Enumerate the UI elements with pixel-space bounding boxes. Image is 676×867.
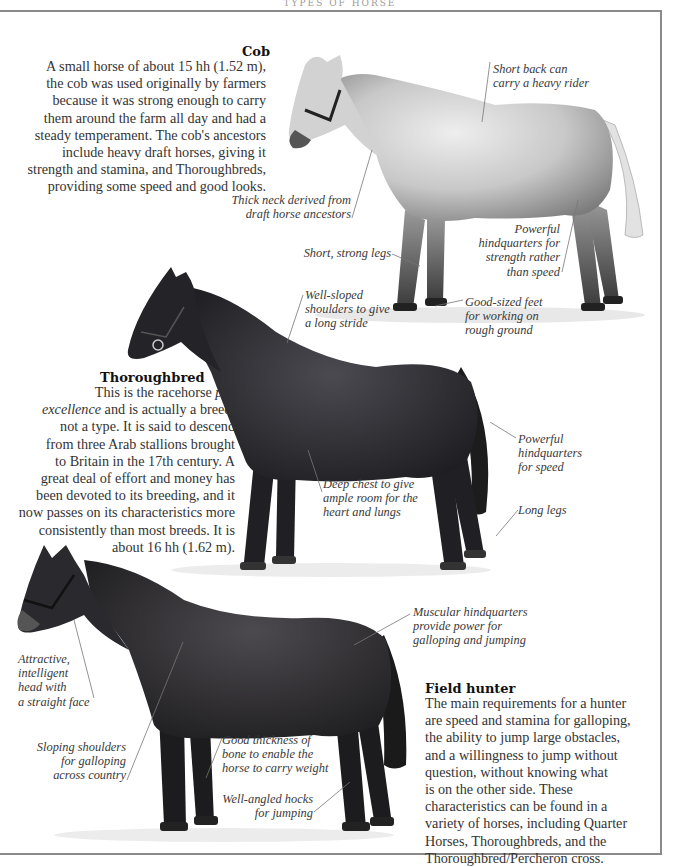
cob-title: Cob	[242, 44, 270, 59]
cob-caption-thick-neck: Thick neck derived from draft horse ance…	[171, 193, 351, 221]
thoroughbred-title: Thoroughbred	[100, 370, 205, 385]
field-hunter-caption-well-angled-hocks: Well-angled hocks for jumping	[173, 792, 313, 820]
thoroughbred-text-italic: par	[215, 384, 235, 400]
field-hunter-description: The main requirements for a hunter are s…	[425, 695, 665, 867]
thoroughbred-text-part: and is actually a breed, not a type. It …	[19, 401, 235, 555]
cob-caption-short-back: Short back can carry a heavy rider	[493, 62, 589, 90]
thoroughbred-caption-deep-chest: Deep chest to give ample room for the he…	[323, 477, 418, 520]
running-head: TYPES OF HORSE	[200, 0, 480, 6]
thoroughbred-caption-powerful-hindquarters: Powerful hindquarters for speed	[518, 432, 582, 475]
thoroughbred-caption-well-sloped-shoulders: Well-sloped shoulders to give a long str…	[305, 288, 390, 331]
field-hunter-caption-muscular-hindquarters: Muscular hindquarters provide power for …	[413, 605, 528, 648]
field-hunter-caption-good-thickness: Good thickness of bone to enable the hor…	[222, 733, 328, 776]
cob-description: A small horse of about 15 hh (1.52 m), t…	[0, 58, 266, 196]
cob-caption-short-legs: Short, strong legs	[251, 246, 391, 260]
thoroughbred-text-part: This is the racehorse	[95, 384, 216, 400]
field-hunter-caption-attractive-head: Attractive, intelligent head with a stra…	[18, 652, 90, 709]
field-hunter-caption-sloping-shoulders: Sloping shoulders for galloping across c…	[0, 740, 126, 783]
thoroughbred-caption-long-legs: Long legs	[518, 503, 567, 517]
field-hunter-title: Field hunter	[425, 681, 515, 696]
thoroughbred-text-italic: excellence	[42, 401, 101, 417]
thoroughbred-description: This is the racehorse parexcellence and …	[0, 384, 235, 556]
